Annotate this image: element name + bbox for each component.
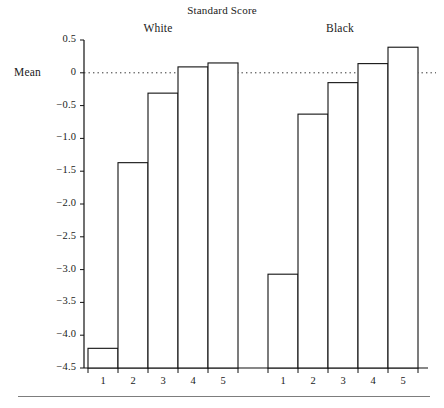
bar[interactable] bbox=[148, 93, 178, 368]
bar[interactable] bbox=[178, 67, 208, 368]
x-tick-label: 3 bbox=[153, 375, 173, 386]
bar[interactable] bbox=[88, 348, 118, 368]
x-tick-label: 1 bbox=[93, 375, 113, 386]
x-tick-label: 2 bbox=[123, 375, 143, 386]
x-tick-label: 5 bbox=[213, 375, 233, 386]
x-tick-label: 2 bbox=[303, 375, 323, 386]
x-tick-label: 4 bbox=[363, 375, 383, 386]
x-tick-label: 4 bbox=[183, 375, 203, 386]
bar[interactable] bbox=[298, 114, 328, 368]
chart-figure: Standard Score White Black Mean 0.50−0.5… bbox=[0, 0, 444, 408]
plot-area bbox=[0, 0, 444, 408]
x-tick-label: 1 bbox=[273, 375, 293, 386]
bar[interactable] bbox=[328, 83, 358, 368]
bar[interactable] bbox=[358, 64, 388, 368]
footer-divider bbox=[18, 396, 430, 397]
bar[interactable] bbox=[388, 47, 418, 368]
bar[interactable] bbox=[208, 63, 238, 368]
bar[interactable] bbox=[268, 274, 298, 368]
bar[interactable] bbox=[118, 163, 148, 368]
x-tick-label: 3 bbox=[333, 375, 353, 386]
x-tick-label: 5 bbox=[393, 375, 413, 386]
